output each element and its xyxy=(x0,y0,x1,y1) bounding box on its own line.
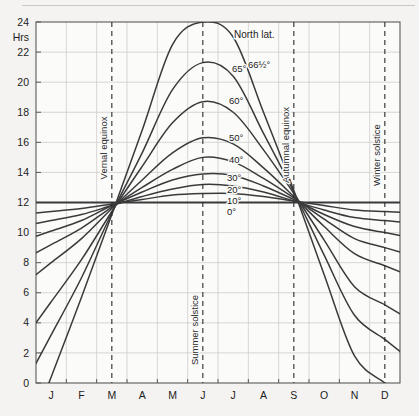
top-rule-divider xyxy=(22,5,415,6)
chart-svg-canvas: 024681012141618202224HrsJFMAMJJASONDVern… xyxy=(0,0,419,416)
y-axis-tick-label: 24 xyxy=(17,16,29,28)
y-axis-tick-label: 10 xyxy=(17,226,29,238)
curve-latitude-label: 0° xyxy=(227,206,236,217)
y-axis-tick-label: 0 xyxy=(23,377,29,389)
x-axis-month-label: N xyxy=(351,389,359,401)
curve-latitude-label: 60° xyxy=(229,95,244,106)
x-axis-month-label: F xyxy=(78,389,84,401)
y-axis-tick-label: 6 xyxy=(23,286,29,298)
x-axis-month-label: D xyxy=(381,389,389,401)
curve-latitude-label: 66½° xyxy=(248,59,270,70)
y-axis-tick-label: 18 xyxy=(17,106,29,118)
curve-latitude-label: 65° xyxy=(232,63,247,74)
y-axis-tick-label: 4 xyxy=(23,316,29,328)
x-axis-month-label: J xyxy=(200,389,205,401)
y-axis-tick-label: 14 xyxy=(17,166,29,178)
y-axis-tick-label: 8 xyxy=(23,256,29,268)
event-label: Vernal equinox xyxy=(98,116,109,179)
daylight-hours-chart-figure: 024681012141618202224HrsJFMAMJJASONDVern… xyxy=(0,0,419,416)
event-label: Autumnal equinox xyxy=(280,107,291,183)
x-axis-month-label: A xyxy=(139,389,146,401)
curve-latitude-label: 20° xyxy=(227,184,242,195)
y-axis-tick-label: 20 xyxy=(17,76,29,88)
y-axis-unit-label: Hrs xyxy=(13,31,29,43)
y-axis-tick-label: 22 xyxy=(17,46,29,58)
x-axis-month-label: A xyxy=(260,389,267,401)
y-axis-tick-label: 16 xyxy=(17,136,29,148)
x-axis-month-label: O xyxy=(320,389,328,401)
curve-latitude-label: 30° xyxy=(227,172,242,183)
event-label: Winter solstice xyxy=(371,124,382,186)
x-axis-month-label: S xyxy=(290,389,297,401)
x-axis-month-label: J xyxy=(49,389,54,401)
legend-title-north-lat: North lat. xyxy=(234,29,275,40)
y-axis-tick-label: 12 xyxy=(17,196,29,208)
x-axis-month-label: M xyxy=(168,389,177,401)
event-label: Summer solstice xyxy=(189,295,200,365)
curve-latitude-label: 10° xyxy=(227,195,242,206)
curve-latitude-label: 40° xyxy=(229,154,244,165)
x-axis-month-label: M xyxy=(107,389,116,401)
y-axis-tick-label: 2 xyxy=(23,347,29,359)
curve-latitude-label: 50° xyxy=(229,132,244,143)
x-axis-month-label: J xyxy=(231,389,236,401)
